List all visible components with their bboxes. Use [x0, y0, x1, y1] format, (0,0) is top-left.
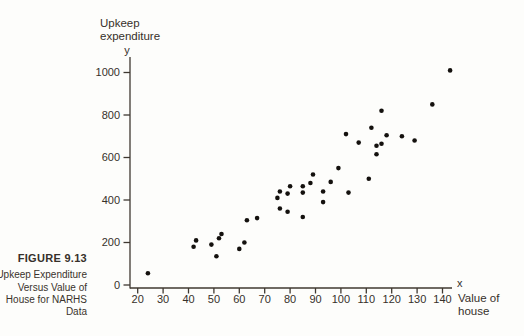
- data-point: [374, 152, 379, 157]
- data-point: [191, 245, 196, 250]
- y-tick-label: 400: [102, 194, 120, 206]
- data-point: [285, 209, 290, 214]
- figure-caption-line2: Versus Value of: [18, 282, 88, 293]
- data-point: [214, 254, 219, 259]
- data-point: [288, 184, 293, 189]
- x-tick-label: 120: [383, 293, 401, 305]
- data-point: [278, 206, 283, 211]
- y-axis-symbol: y: [124, 44, 130, 56]
- data-point: [219, 232, 224, 237]
- figure-page: Upkeep expenditure y x Value of house FI…: [0, 0, 524, 336]
- data-point: [346, 190, 351, 195]
- axes-group: 0200400600800100020304050607080901001101…: [96, 57, 452, 305]
- x-tick-label: 140: [433, 293, 451, 305]
- data-point: [146, 271, 151, 276]
- data-point: [301, 184, 306, 189]
- data-points-group: [146, 68, 453, 276]
- data-point: [384, 133, 389, 138]
- y-tick-label: 0: [114, 279, 120, 291]
- data-point: [194, 238, 199, 243]
- data-point: [369, 126, 374, 131]
- data-point: [217, 236, 222, 241]
- x-tick-label: 40: [182, 293, 194, 305]
- data-point: [430, 102, 435, 107]
- data-point: [245, 218, 250, 223]
- figure-label: FIGURE 9.13: [18, 252, 87, 264]
- x-tick-label: 70: [259, 293, 271, 305]
- y-tick-label: 800: [102, 109, 120, 121]
- scatter-plot: Upkeep expenditure y x Value of house FI…: [0, 0, 524, 336]
- data-point: [242, 240, 247, 245]
- figure-caption-line1: Upkeep Expenditure: [0, 269, 87, 280]
- x-tick-label: 110: [358, 293, 376, 305]
- data-point: [374, 144, 379, 149]
- x-axis-title-line2: house: [458, 305, 489, 317]
- x-tick-label: 30: [157, 293, 169, 305]
- data-point: [379, 109, 384, 114]
- x-axis-title-line1: Value of: [458, 292, 500, 304]
- data-point: [400, 134, 405, 139]
- data-point: [356, 140, 361, 145]
- figure-caption-line3: House for NARHS: [6, 294, 87, 305]
- data-point: [321, 200, 326, 205]
- data-point: [278, 189, 283, 194]
- data-point: [285, 191, 290, 196]
- data-point: [311, 172, 316, 177]
- data-point: [336, 166, 341, 171]
- y-tick-label: 1000: [96, 66, 120, 78]
- data-point: [209, 242, 214, 247]
- data-point: [321, 189, 326, 194]
- data-point: [367, 177, 372, 182]
- data-point: [379, 141, 384, 146]
- data-point: [301, 215, 306, 220]
- x-tick-label: 60: [233, 293, 245, 305]
- x-axis-symbol: x: [457, 277, 463, 289]
- data-point: [301, 190, 306, 195]
- y-axis-title-line2: expenditure: [100, 30, 160, 42]
- x-tick-label: 80: [284, 293, 296, 305]
- data-point: [275, 196, 280, 201]
- data-point: [412, 138, 417, 143]
- y-tick-label: 600: [102, 151, 120, 163]
- x-tick-label: 100: [332, 293, 350, 305]
- x-tick-label: 130: [408, 293, 426, 305]
- data-point: [255, 216, 260, 221]
- y-axis-title-line1: Upkeep: [100, 17, 140, 29]
- data-point: [448, 68, 453, 73]
- x-tick-label: 50: [208, 293, 220, 305]
- data-point: [328, 180, 333, 185]
- x-tick-label: 90: [309, 293, 321, 305]
- y-tick-label: 200: [102, 236, 120, 248]
- data-point: [237, 247, 242, 252]
- data-point: [344, 132, 349, 137]
- data-point: [308, 181, 313, 186]
- figure-caption-line4: Data: [66, 306, 88, 317]
- x-tick-label: 20: [132, 293, 144, 305]
